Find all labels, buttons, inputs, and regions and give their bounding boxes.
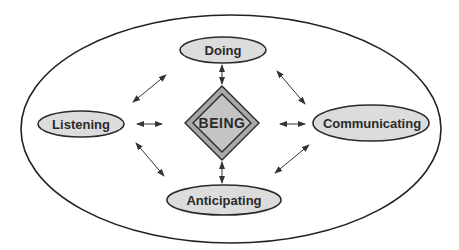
- node-communicating-label: Communicating: [323, 116, 421, 131]
- node-anticipating-label: Anticipating: [186, 193, 261, 208]
- arrow-listening-anticipating: [136, 143, 164, 176]
- center-being-label: BEING: [199, 115, 246, 131]
- arrow-doing-communicating: [277, 71, 305, 104]
- arrow-anticipating-communicating: [275, 145, 309, 173]
- node-anticipating: Anticipating: [167, 185, 281, 215]
- arrow-listening-doing: [133, 75, 166, 102]
- node-doing-label: Doing: [205, 43, 242, 58]
- diagram-canvas: Doing Listening Communicating Anticipati…: [0, 0, 459, 250]
- node-listening-label: Listening: [52, 117, 110, 132]
- node-communicating: Communicating: [313, 105, 429, 141]
- center-diamond-being: BEING: [185, 86, 259, 160]
- node-doing: Doing: [180, 37, 266, 63]
- node-listening: Listening: [38, 111, 124, 137]
